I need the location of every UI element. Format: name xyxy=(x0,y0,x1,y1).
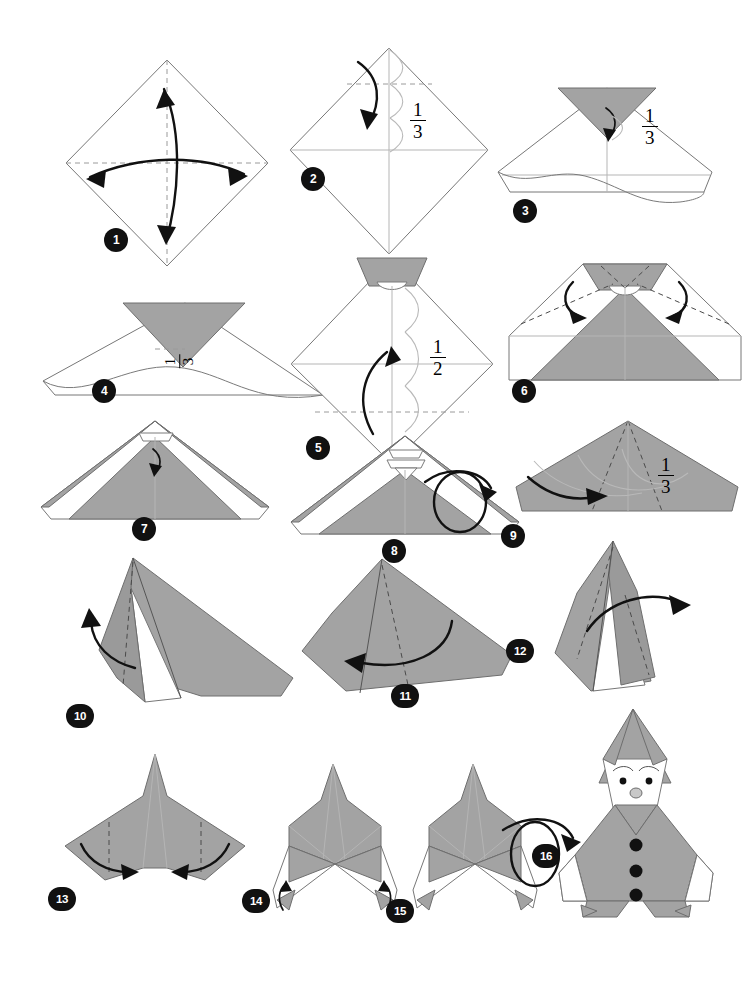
coat-button-1 xyxy=(630,839,643,852)
eye-right-icon xyxy=(646,778,653,785)
step-3-diagram: 1 3 3 xyxy=(490,80,725,220)
step-7-figure xyxy=(35,415,275,525)
fraction-one-half: 1 2 xyxy=(430,337,446,378)
step-4-diagram: 1 3 4 xyxy=(35,295,325,415)
step-8-diagram: 8 xyxy=(285,430,535,545)
gray-pentagon-body xyxy=(516,421,738,511)
fraction-numerator: 1 xyxy=(430,337,446,356)
nose-icon xyxy=(630,788,642,798)
step-9-diagram: 1 3 9 xyxy=(510,415,745,525)
step-12-diagram: 12 xyxy=(525,535,745,705)
step-badge-2: 2 xyxy=(302,168,324,190)
step-badge-13: 13 xyxy=(49,888,75,910)
fold-up-left-arrowhead xyxy=(81,608,101,628)
fraction-one-third: 1 3 xyxy=(410,100,426,141)
step-8-figure xyxy=(285,430,535,545)
fraction-one-third: 1 3 xyxy=(658,455,674,496)
coat-button-2 xyxy=(630,865,643,878)
step-13-diagram: 13 xyxy=(55,750,255,895)
step-2-diagram: 1 3 2 xyxy=(282,40,497,265)
step-badge-6: 6 xyxy=(513,380,535,402)
fraction-numerator: 1 xyxy=(658,455,674,474)
fraction-numerator: 1 xyxy=(642,106,658,125)
coat-button-3 xyxy=(630,889,643,902)
white-notch-1 xyxy=(389,450,423,458)
step-badge-1: 1 xyxy=(105,229,127,251)
step-6-diagram: 6 xyxy=(505,258,745,403)
eye-left-icon xyxy=(620,778,627,785)
step-10-diagram: 10 xyxy=(75,550,305,720)
step-7-diagram: 7 xyxy=(35,415,275,525)
white-notch-2 xyxy=(387,460,425,468)
fraction-denominator: 3 xyxy=(658,477,674,496)
step-badge-10: 10 xyxy=(67,705,93,727)
step-badge-11: 11 xyxy=(392,685,418,707)
step-badge-4: 4 xyxy=(93,380,115,402)
fraction-numerator: 1 xyxy=(410,100,426,119)
step-badge-15: 15 xyxy=(387,900,413,922)
fraction-denominator: 3 xyxy=(181,355,196,369)
step-3-figure xyxy=(490,80,725,220)
step-14-diagram: 14 xyxy=(265,760,405,920)
step-16-diagram: 16 xyxy=(555,705,745,920)
step-2-figure xyxy=(282,40,497,265)
step-badge-12: 12 xyxy=(507,640,533,662)
gray-kite-body xyxy=(65,754,245,880)
step-6-figure xyxy=(505,258,745,403)
white-notch-highlight xyxy=(139,433,173,441)
step-10-figure xyxy=(75,550,305,720)
fraction-one-third-rotated: 1 3 xyxy=(163,355,196,369)
step-badge-9: 9 xyxy=(502,525,524,547)
step-13-figure xyxy=(55,750,255,895)
step-12-figure xyxy=(525,535,745,705)
step-1-diagram: 1 xyxy=(60,55,275,270)
step-badge-14: 14 xyxy=(243,890,269,912)
step-9-figure xyxy=(510,415,745,525)
origami-instruction-sheet: 1 1 3 2 xyxy=(0,0,756,981)
step-14-figure xyxy=(265,760,405,920)
step-badge-3: 3 xyxy=(514,200,536,222)
fraction-denominator: 2 xyxy=(430,359,446,378)
step-badge-7: 7 xyxy=(133,518,155,540)
step-badge-16: 16 xyxy=(533,845,559,867)
fraction-numerator: 1 xyxy=(163,355,178,369)
fraction-one-third: 1 3 xyxy=(642,106,658,147)
gray-main-body xyxy=(302,559,512,691)
step-11-figure xyxy=(300,553,530,703)
fold-right-arrowhead xyxy=(669,595,691,615)
fraction-denominator: 3 xyxy=(410,122,426,141)
step-1-figure xyxy=(60,55,275,270)
step-11-diagram: 11 xyxy=(300,553,530,703)
step-16-figure-santa xyxy=(555,705,745,920)
fraction-denominator: 3 xyxy=(642,128,658,147)
